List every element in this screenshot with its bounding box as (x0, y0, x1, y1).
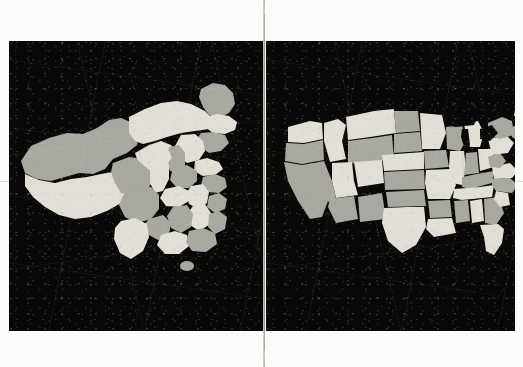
region-jilin (205, 114, 237, 134)
region-henan (170, 165, 197, 188)
region-montana (346, 109, 396, 140)
region-arizona (328, 196, 358, 223)
panel-china (9, 41, 263, 331)
region-arkansas (428, 200, 452, 218)
region-hainan (180, 261, 194, 271)
region-washington (288, 121, 323, 143)
region-texas (382, 207, 426, 253)
china-regions (21, 83, 237, 271)
region-new-mexico (358, 193, 386, 222)
usa-regions (284, 101, 515, 255)
region-oregon (285, 140, 324, 164)
panel-usa (266, 41, 515, 331)
region-nebraska (382, 152, 424, 171)
region-fujian (208, 211, 227, 234)
screenshot-stage (0, 0, 523, 367)
region-minnesota (420, 113, 446, 149)
region-oklahoma (386, 190, 426, 207)
region-idaho (324, 119, 346, 162)
region-north-dakota (394, 111, 420, 133)
region-mississippi (454, 200, 470, 223)
region-indiana (464, 152, 479, 175)
usa-map (266, 41, 515, 331)
region-shandong (194, 158, 223, 176)
region-south-dakota (394, 132, 422, 153)
region-iowa (424, 150, 449, 169)
region-alabama (470, 199, 484, 223)
region-hunan (167, 205, 193, 233)
region-maine (514, 101, 515, 123)
region-north-carolina (492, 178, 515, 193)
region-guangdong (186, 228, 217, 252)
region-kansas (384, 170, 425, 190)
region-utah (332, 162, 358, 198)
region-hubei (160, 186, 189, 207)
region-zhejiang (207, 193, 227, 213)
region-yunnan (114, 218, 149, 259)
region-louisiana (426, 218, 456, 237)
china-map (9, 41, 263, 331)
region-colorado (354, 160, 384, 187)
region-florida (480, 224, 504, 255)
